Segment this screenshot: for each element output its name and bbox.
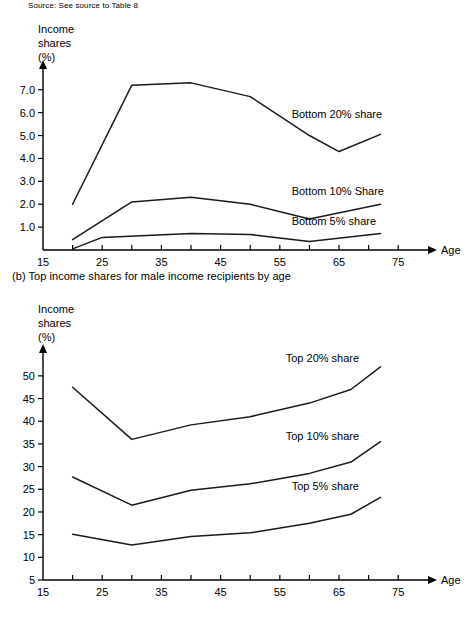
y-axis-tick-label: 15 xyxy=(23,529,35,541)
series-label: Top 5% share xyxy=(292,480,359,492)
chart-a-svg: Incomeshares(%)Age1.02.03.04.05.06.07.01… xyxy=(0,18,476,270)
x-axis-title: Age xyxy=(441,574,461,586)
series-line xyxy=(73,234,381,249)
y-axis-tick-label: 40 xyxy=(23,415,35,427)
x-axis-title: Age xyxy=(441,244,461,256)
x-axis-tick-label: 55 xyxy=(274,586,286,598)
x-axis-tick-label: 25 xyxy=(96,256,108,268)
y-axis-title-line-2: shares xyxy=(38,37,72,49)
x-axis-tick-label: 45 xyxy=(214,586,226,598)
y-axis-tick-label: 1.0 xyxy=(20,221,35,233)
y-axis-tick-label: 4.0 xyxy=(20,152,35,164)
y-axis-tick-label: 2.0 xyxy=(20,198,35,210)
y-axis-tick-label: 30 xyxy=(23,461,35,473)
x-axis-tick-label: 65 xyxy=(333,256,345,268)
x-axis-tick-label: 75 xyxy=(392,586,404,598)
y-axis-tick-label: 3.0 xyxy=(20,175,35,187)
series-label: Top 20% share xyxy=(286,352,359,364)
y-axis-tick-label: 7.0 xyxy=(20,84,35,96)
series-label: Bottom 5% share xyxy=(292,215,376,227)
y-axis-title-line-3: (%) xyxy=(38,331,55,343)
y-axis-tick-label: 6.0 xyxy=(20,107,35,119)
x-axis-tick-label: 65 xyxy=(333,586,345,598)
x-axis-tick-label: 35 xyxy=(155,586,167,598)
y-axis-title-line-1: Income xyxy=(38,23,74,35)
x-axis-tick-label: 75 xyxy=(392,256,404,268)
y-axis-tick-label: 10 xyxy=(23,551,35,563)
series-label: Bottom 20% share xyxy=(292,108,383,120)
y-axis-tick-label: 5 xyxy=(29,574,35,586)
y-axis-tick-label: 5.0 xyxy=(20,130,35,142)
source-note: Source: See source to Table 8 xyxy=(28,1,138,10)
chart-panel-a-bottom-income-shares: Incomeshares(%)Age1.02.03.04.05.06.07.01… xyxy=(0,18,476,270)
y-axis-title-line-3: (%) xyxy=(38,51,55,63)
series-line xyxy=(73,442,381,506)
series-label: Top 10% share xyxy=(286,430,359,442)
x-axis-tick-label: 55 xyxy=(274,256,286,268)
chart-b-svg: Incomeshares(%)Age5101520253035404550152… xyxy=(0,298,476,622)
x-axis-tick-label: 15 xyxy=(37,586,49,598)
x-axis-tick-label: 15 xyxy=(37,256,49,268)
panel-b-caption: (b) Top income shares for male income re… xyxy=(12,270,291,282)
y-axis-title-line-2: shares xyxy=(38,317,72,329)
x-axis-tick-label: 45 xyxy=(214,256,226,268)
x-axis-tick-label: 35 xyxy=(155,256,167,268)
x-axis-tick-label: 25 xyxy=(96,586,108,598)
y-axis-tick-label: 25 xyxy=(23,483,35,495)
series-line xyxy=(73,497,381,545)
y-axis-tick-label: 35 xyxy=(23,438,35,450)
series-label: Bottom 10% Share xyxy=(292,185,384,197)
series-line xyxy=(73,367,381,440)
y-axis-tick-label: 50 xyxy=(23,370,35,382)
x-axis-arrow-icon xyxy=(428,576,437,584)
y-axis-tick-label: 20 xyxy=(23,506,35,518)
chart-panel-b-top-income-shares: Incomeshares(%)Age5101520253035404550152… xyxy=(0,298,476,622)
y-axis-tick-label: 45 xyxy=(23,393,35,405)
y-axis-arrow-icon xyxy=(39,344,47,353)
x-axis-arrow-icon xyxy=(428,246,437,254)
figure-page: Source: See source to Table 8 Incomeshar… xyxy=(0,0,476,622)
y-axis-title-line-1: Income xyxy=(38,303,74,315)
